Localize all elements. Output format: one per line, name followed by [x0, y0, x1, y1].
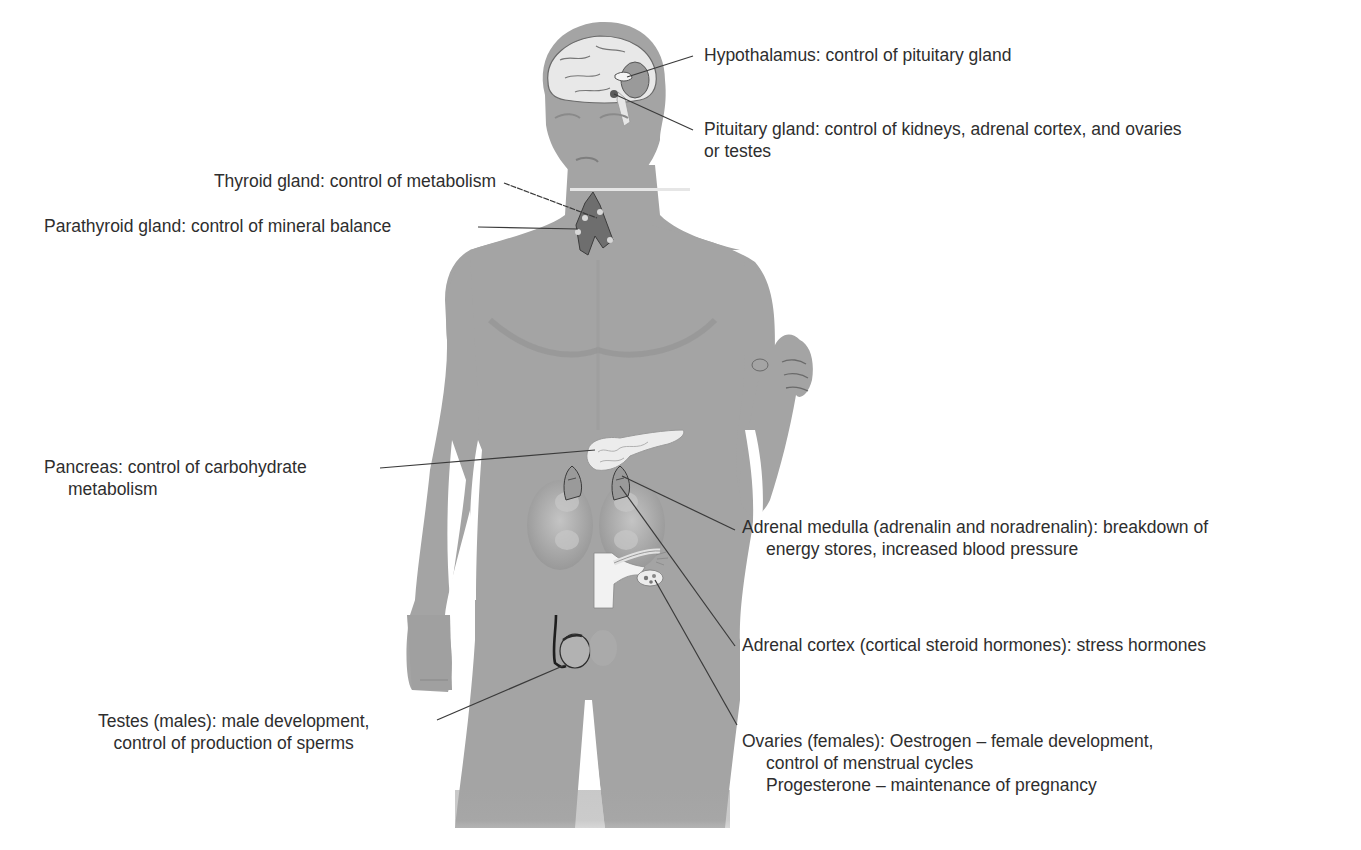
label-pituitary-gland: Pituitary gland: control of kidneys, adr… [704, 118, 1182, 162]
label-thyroid-gland: Thyroid gland: control of metabolism [214, 170, 496, 192]
label-parathyroid-line-1: Parathyroid gland: control of mineral ba… [44, 215, 391, 237]
label-ovaries-line-3: Progesterone – maintenance of pregnancy [742, 774, 1153, 796]
label-adrenal-cortex: Adrenal cortex (cortical steroid hormone… [742, 634, 1206, 656]
label-ovaries-line-1: Ovaries (females): Oestrogen – female de… [742, 730, 1153, 752]
label-pancreas-line-2: metabolism [44, 478, 307, 500]
label-adrenal-cortex-line-1: Adrenal cortex (cortical steroid hormone… [742, 634, 1206, 656]
label-testes-line-1: Testes (males): male development, [98, 710, 369, 732]
label-adrenal-medulla-line-1: Adrenal medulla (adrenalin and noradrena… [742, 516, 1208, 538]
label-testes-line-2: control of production of sperms [98, 732, 369, 754]
label-adrenal-medulla: Adrenal medulla (adrenalin and noradrena… [742, 516, 1208, 560]
label-pituitary-line-2: or testes [704, 140, 1182, 162]
label-adrenal-medulla-line-2: energy stores, increased blood pressure [742, 538, 1208, 560]
label-ovaries-line-2: control of menstrual cycles [742, 752, 1153, 774]
label-parathyroid-gland: Parathyroid gland: control of mineral ba… [44, 215, 391, 237]
label-pancreas: Pancreas: control of carbohydrate metabo… [44, 456, 307, 500]
label-ovaries: Ovaries (females): Oestrogen – female de… [742, 730, 1153, 796]
label-hypothalamus-line-1: Hypothalamus: control of pituitary gland [704, 44, 1011, 66]
label-pancreas-line-1: Pancreas: control of carbohydrate [44, 456, 307, 478]
label-hypothalamus: Hypothalamus: control of pituitary gland [704, 44, 1011, 66]
label-pituitary-line-1: Pituitary gland: control of kidneys, adr… [704, 118, 1182, 140]
label-testes: Testes (males): male development, contro… [98, 710, 369, 754]
label-thyroid-line-1: Thyroid gland: control of metabolism [214, 170, 496, 192]
